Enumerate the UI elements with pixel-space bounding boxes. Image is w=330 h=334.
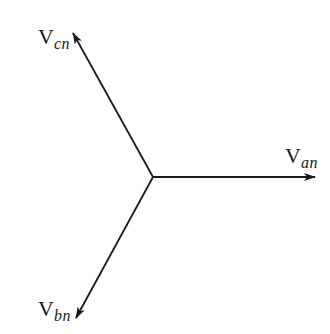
- label-van-sub: an: [301, 154, 318, 171]
- label-van-main: V: [285, 143, 301, 168]
- label-vbn: Vbn: [38, 298, 71, 324]
- label-van: Van: [285, 145, 318, 171]
- label-vcn-sub: cn: [54, 35, 70, 52]
- label-vbn-sub: bn: [54, 307, 71, 324]
- label-vcn: Vcn: [38, 26, 70, 52]
- phasor-vbn-arrow: [76, 177, 153, 318]
- label-vcn-main: V: [38, 24, 54, 49]
- label-vbn-main: V: [38, 296, 54, 321]
- phasor-vcn-arrow: [73, 33, 153, 177]
